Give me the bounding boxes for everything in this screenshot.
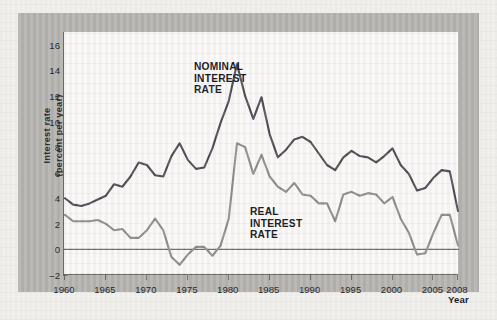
y-tick-label: 2	[34, 218, 60, 229]
x-tick-mark	[351, 275, 352, 280]
y-tick-label: 14	[34, 65, 60, 76]
series-line-nominal	[65, 64, 458, 211]
x-tick-mark	[269, 275, 270, 280]
series-label-nominal: NOMINALINTERESTRATE	[194, 61, 246, 96]
x-axis-tick-labels: 1960196519701975198019851990199520002005…	[63, 275, 460, 297]
y-tick-label: 8	[34, 142, 60, 153]
series-label-line: REAL	[250, 206, 279, 217]
x-tick-label: 1980	[217, 284, 238, 295]
x-tick-label: 2005	[422, 284, 443, 295]
series-label-line: INTEREST	[194, 73, 246, 84]
x-tick-mark	[310, 275, 311, 280]
x-tick-mark	[392, 275, 393, 280]
x-tick-mark	[187, 275, 188, 280]
series-label-line: INTEREST	[250, 218, 302, 229]
y-axis-tick-labels: –20246810121416	[32, 32, 60, 275]
series-label-line: RATE	[194, 84, 222, 95]
x-tick-label: 1995	[340, 284, 361, 295]
x-axis-title: Year	[448, 294, 469, 305]
x-tick-mark	[457, 275, 458, 280]
y-tick-label: 16	[34, 39, 60, 50]
y-tick-label: 12	[34, 90, 60, 101]
x-tick-mark	[105, 275, 106, 280]
figure-frame: Interest rate (percent per year) –202468…	[18, 13, 479, 292]
x-tick-label: 1990	[299, 284, 320, 295]
y-tick-label: 4	[34, 193, 60, 204]
y-tick-label: –2	[34, 270, 60, 281]
y-tick-label: 6	[34, 167, 60, 178]
series-label-line: RATE	[250, 229, 278, 240]
y-tick-label: 10	[34, 116, 60, 127]
x-tick-mark	[146, 275, 147, 280]
x-tick-label: 1965	[94, 284, 115, 295]
x-tick-mark	[64, 275, 65, 280]
series-label-real: REALINTERESTRATE	[250, 206, 302, 241]
x-tick-mark	[432, 275, 433, 280]
x-tick-label: 1960	[53, 284, 74, 295]
series-label-line: NOMINAL	[194, 61, 243, 72]
x-tick-label: 2000	[381, 284, 402, 295]
x-tick-label: 1975	[176, 284, 197, 295]
x-tick-label: 1970	[135, 284, 156, 295]
x-tick-mark	[228, 275, 229, 280]
x-tick-label: 1985	[258, 284, 279, 295]
y-tick-label: 0	[34, 244, 60, 255]
